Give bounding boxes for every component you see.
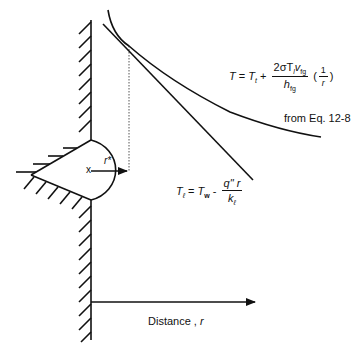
radius-label: r*	[104, 156, 111, 166]
curve-formula: T = Tt + 2σTlvfg hfg (1r)	[229, 62, 334, 92]
wall	[79, 20, 91, 342]
formula-fraction: 2σTlvfg hfg	[272, 62, 309, 92]
formula-lhs: T	[229, 70, 236, 82]
axis-label: Distance , r	[148, 316, 204, 327]
formula-equals: =	[239, 70, 245, 82]
formula-inverse-r: 1r	[319, 66, 328, 88]
diagram-canvas: T = Tt + 2σTlvfg hfg (1r) from Eq. 12-8 …	[0, 0, 357, 355]
liquid-temperature-line	[103, 24, 253, 180]
formula-plus: +	[260, 70, 266, 82]
line-formula: Tℓ = Tw - q" r kℓ	[176, 178, 244, 206]
cavity	[16, 140, 91, 209]
curve-source-label: from Eq. 12-8	[284, 113, 351, 124]
center-marker: x	[86, 165, 91, 175]
bubble-outline	[91, 140, 116, 200]
line-formula-fraction: q" r kℓ	[222, 178, 243, 206]
formula-t-sub: t	[255, 77, 257, 84]
